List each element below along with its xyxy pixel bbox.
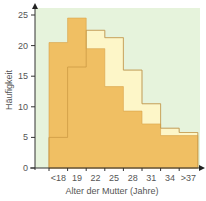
- x-tick-labels: <18192225283134>37: [49, 168, 196, 183]
- y-tick-label: 5: [23, 132, 28, 142]
- x-tick-label: 22: [90, 173, 100, 183]
- x-tick-label: 19: [72, 173, 82, 183]
- x-tick-label: 28: [128, 173, 138, 183]
- y-tick-label: 20: [18, 41, 28, 51]
- y-tick-label: 0: [23, 163, 28, 173]
- y-tick-label: 10: [18, 102, 28, 112]
- y-tick-label: 25: [18, 10, 28, 20]
- y-tick-labels: 0510152025: [18, 10, 35, 173]
- histogram-chart: 0510152025 <18192225283134>37 Häufigkeit…: [0, 0, 206, 201]
- x-axis-title: Alter der Mutter (Jahre): [65, 186, 158, 196]
- x-tick-label: 25: [109, 173, 119, 183]
- y-axis-arrow-icon: [32, 3, 38, 9]
- x-tick-label: <18: [51, 173, 66, 183]
- x-tick-label: 34: [165, 173, 175, 183]
- y-tick-label: 15: [18, 71, 28, 81]
- x-tick-label: 31: [146, 173, 156, 183]
- x-tick-label: >37: [181, 173, 196, 183]
- x-axis-arrow-icon: [199, 165, 205, 171]
- y-axis-title: Häufigkeit: [4, 69, 14, 110]
